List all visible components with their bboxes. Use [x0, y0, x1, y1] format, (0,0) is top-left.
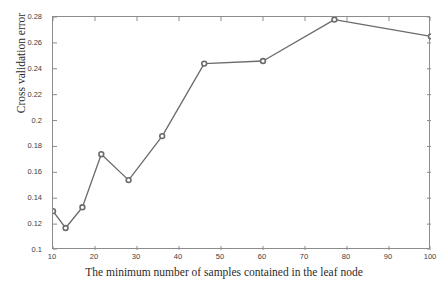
data-series-line [53, 20, 431, 228]
x-tick-label: 50 [216, 252, 224, 261]
chart-screenshot: 0.280.260.240.220.20.180.160.140.120.1 1… [0, 0, 448, 293]
x-tick-label: 80 [342, 252, 350, 261]
y-tick-label: 0.2 [32, 115, 42, 124]
y-axis-ticks [53, 17, 431, 250]
x-tick-label: 30 [132, 252, 140, 261]
x-tick-label: 90 [384, 252, 392, 261]
x-tick-label: 20 [90, 252, 98, 261]
y-tick-label: 0.12 [27, 219, 42, 228]
x-axis-title: The minimum number of samples contained … [0, 266, 448, 278]
data-point-markers [53, 17, 431, 230]
data-point-marker [63, 226, 68, 231]
data-point-marker [99, 152, 104, 157]
data-point-marker [429, 34, 431, 39]
data-point-marker [126, 178, 131, 183]
y-tick-label: 0.28 [27, 12, 42, 21]
data-point-marker [160, 134, 165, 139]
line-chart-svg [53, 17, 431, 250]
data-point-marker [202, 61, 207, 66]
x-tick-label: 100 [424, 252, 437, 261]
x-tick-label: 10 [48, 252, 56, 261]
y-tick-label: 0.26 [27, 37, 42, 46]
x-axis-ticks [53, 17, 431, 250]
data-point-marker [80, 205, 85, 210]
x-tick-label: 40 [174, 252, 182, 261]
data-point-marker [261, 59, 266, 64]
y-tick-label: 0.16 [27, 167, 42, 176]
y-tick-label: 0.22 [27, 89, 42, 98]
y-axis-title: Cross validation error [15, 0, 27, 143]
x-tick-label: 70 [300, 252, 308, 261]
data-point-marker [332, 17, 337, 22]
y-tick-label: 0.18 [27, 141, 42, 150]
y-tick-label: 0.24 [27, 63, 42, 72]
x-axis-tick-labels: 102030405060708090100 [0, 252, 448, 264]
y-tick-label: 0.14 [27, 193, 42, 202]
plot-area [52, 16, 430, 249]
y-axis-title-wrapper: Cross validation error [15, 0, 29, 143]
data-point-marker [53, 209, 55, 214]
x-tick-label: 60 [258, 252, 266, 261]
